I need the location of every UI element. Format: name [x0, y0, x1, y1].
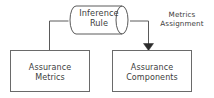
cylinder-body — [70, 6, 128, 34]
edge-inference-rule-to-assurance-metrics[interactable] — [50, 21, 69, 50]
edge-line-components — [130, 21, 149, 44]
diagram-canvas — [0, 0, 214, 98]
arrowhead-icon — [144, 44, 154, 51]
edge-line-metrics — [50, 21, 69, 50]
node-assurance-metrics[interactable] — [11, 51, 90, 92]
node-assurance-components[interactable] — [113, 51, 192, 92]
edge-inference-rule-to-assurance-components[interactable] — [130, 21, 154, 51]
node-inference-rule[interactable] — [70, 6, 128, 34]
